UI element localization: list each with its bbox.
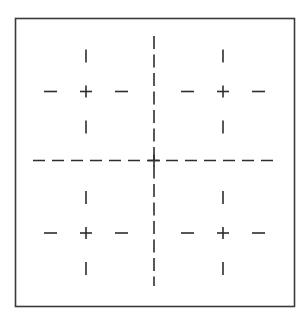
quadrant-cross-diagram <box>0 0 305 326</box>
background <box>0 0 305 326</box>
